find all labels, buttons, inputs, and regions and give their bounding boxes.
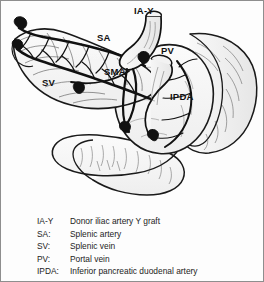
legend-row: SV: Splenic vein: [37, 240, 252, 253]
annotation-ia-y: IA-Y: [134, 6, 154, 16]
annotation-pv: PV: [161, 46, 174, 56]
legend-description: Splenic vein: [70, 240, 115, 253]
legend: IA-Y Donor iliac artery Y graft SA: Sple…: [37, 215, 252, 278]
legend-abbreviation: IA-Y: [37, 215, 70, 228]
annotation-sv: SV: [42, 78, 55, 88]
diagram-svg: [1, 1, 263, 211]
legend-description: Splenic artery: [70, 228, 121, 241]
annotation-sma: SMA: [104, 67, 126, 77]
legend-description: Portal vein: [70, 253, 110, 266]
legend-row: SA: Splenic artery: [37, 228, 252, 241]
legend-abbreviation: IPDA:: [37, 265, 70, 278]
legend-abbreviation: PV:: [37, 253, 70, 266]
annotation-sa: SA: [97, 33, 111, 43]
legend-abbreviation: SV:: [37, 240, 70, 253]
legend-description: Inferior pancreatic duodenal artery: [70, 265, 198, 278]
legend-row: IA-Y Donor iliac artery Y graft: [37, 215, 252, 228]
splenic-artery-stump: [14, 17, 27, 29]
legend-description: Donor iliac artery Y graft: [70, 215, 160, 228]
legend-abbreviation: SA:: [37, 228, 70, 241]
figure-panel: IA-Y SA SMA SV PV IPDA IA-Y Donor iliac …: [0, 0, 264, 282]
iay-anastomosis-sma: [119, 121, 130, 132]
anatomical-diagram: IA-Y SA SMA SV PV IPDA: [1, 1, 263, 211]
annotation-ipda: IPDA: [170, 92, 194, 102]
legend-row: PV: Portal vein: [37, 253, 252, 266]
legend-row: IPDA: Inferior pancreatic duodenal arter…: [37, 265, 252, 278]
